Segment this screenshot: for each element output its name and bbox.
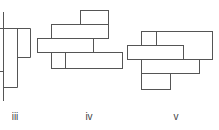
figure-iv [38,11,123,69]
figure-label-v: v [174,111,179,122]
figure-v [128,32,213,90]
figure-label-iii: iii [12,111,19,122]
figure-label-iv: iv [85,111,92,122]
shapes-diagram [0,0,219,130]
figure-iii [0,12,31,101]
